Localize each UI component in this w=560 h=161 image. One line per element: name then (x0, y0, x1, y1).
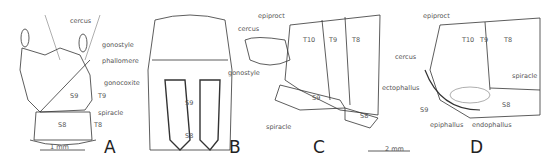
label-d-t10: T10 (462, 37, 474, 44)
label-c-s9: S9 (312, 95, 320, 102)
label-b-s8: S8 (185, 133, 193, 140)
label-a-cercus: cercus (70, 18, 91, 25)
label-d-s8: S8 (502, 102, 510, 109)
panel-label-c: C (313, 139, 325, 156)
label-a-gonostyle: gonostyle (102, 42, 134, 49)
label-d-spiracle: spiracle (512, 73, 537, 80)
label-b-spiracle: spiracle (266, 124, 291, 131)
scale-a: 1 mm (50, 144, 69, 151)
label-a-t8: T8 (94, 122, 102, 129)
label-a-s8: S8 (58, 122, 66, 129)
label-a-spiracle: spiracle (98, 110, 123, 117)
panel-label-a: A (104, 139, 116, 156)
label-d-s9: S9 (420, 107, 428, 114)
label-c-epiproct: epiproct (258, 13, 285, 20)
label-b-s9: S9 (185, 100, 193, 107)
label-d-endophallus: endophallus (472, 122, 512, 129)
scale-c: 2 mm (385, 146, 404, 153)
panel-a-drawing (20, 15, 100, 150)
label-c-t8: T8 (352, 37, 360, 44)
label-d-epiproct: epiproct (423, 13, 450, 20)
label-a-s9: S9 (70, 93, 78, 100)
label-b-cercus: cercus (238, 26, 259, 33)
label-c-s8: S8 (360, 113, 368, 120)
label-d-t8: T8 (504, 37, 512, 44)
label-c-t10: T10 (303, 37, 315, 44)
label-d-epiphallus: epiphallus (430, 122, 463, 129)
label-d-cercus: cercus (395, 54, 416, 61)
label-a-phallomere: phallomere (102, 58, 139, 65)
panel-label-b: B (229, 139, 241, 156)
label-d-ectophallus: ectophallus (382, 85, 419, 92)
panel-b-drawing (148, 15, 232, 150)
label-a-t9: T9 (98, 93, 106, 100)
label-c-t9: T9 (329, 37, 337, 44)
panel-label-d: D (470, 139, 483, 156)
label-d-t9: T9 (480, 37, 488, 44)
label-b-gonostyle: gonostyle (228, 70, 260, 77)
label-a-gonocoxite: gonocoxite (104, 80, 140, 87)
panel-d-drawing (425, 18, 540, 118)
